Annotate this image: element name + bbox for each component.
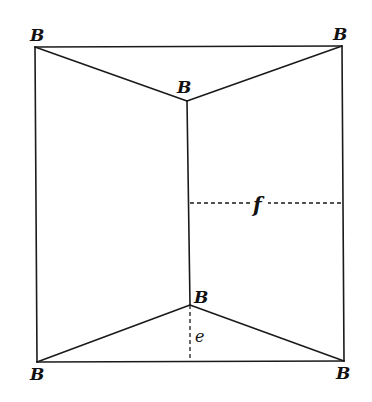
measure-label-e: e <box>195 327 204 346</box>
vertex-label-inner-top: B <box>176 77 191 97</box>
vertex-label-top-right: B <box>332 24 347 44</box>
edge-right <box>342 46 344 361</box>
edge-bottomleft-to-innerbottom <box>37 305 190 362</box>
edge-bottom <box>37 361 344 362</box>
vertex-label-bottom-left: B <box>29 364 44 384</box>
edge-bottomright-to-innerbottom <box>190 305 344 361</box>
vertex-label-bottom-right: B <box>335 363 350 383</box>
edge-top <box>35 46 342 47</box>
edge-inner-vertical <box>187 101 190 305</box>
vertex-label-inner-bottom: B <box>193 287 208 307</box>
prism-diagram: B B B B B B e f <box>0 0 372 402</box>
edge-left <box>35 47 37 362</box>
vertex-label-top-left: B <box>29 25 44 45</box>
edge-topleft-to-innertop <box>35 47 187 101</box>
edge-topright-to-innertop <box>187 46 342 101</box>
